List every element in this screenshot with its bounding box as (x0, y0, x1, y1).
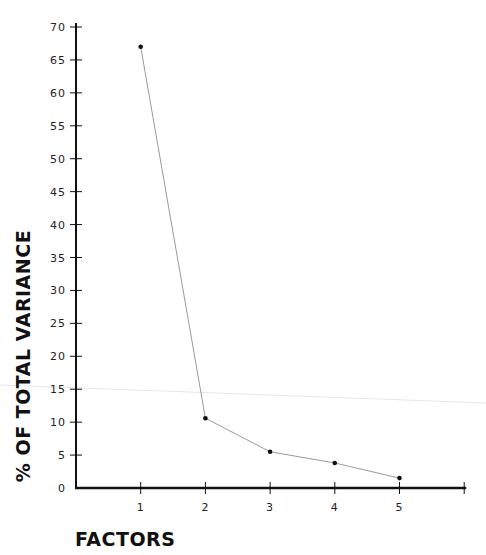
y-tick-label: 55 (50, 120, 66, 133)
y-tick-label: 50 (50, 153, 66, 166)
y-tick-label: 15 (50, 383, 66, 396)
x-tick-label: 3 (266, 501, 274, 514)
x-tick-label: 1 (137, 501, 145, 514)
x-tick-label: 4 (331, 501, 339, 514)
series-line (141, 47, 400, 478)
data-point-marker (203, 416, 208, 421)
data-point-marker (268, 449, 273, 454)
y-tick-label: 35 (50, 252, 66, 265)
y-axis: 0510152025303540455055606570 (50, 21, 82, 495)
y-tick-label: 70 (50, 21, 66, 34)
y-tick-label: 5 (58, 449, 66, 462)
x-tick-label: 5 (396, 501, 404, 514)
y-tick-label: 40 (50, 219, 66, 232)
data-point-marker (138, 44, 143, 49)
data-point-marker (397, 476, 402, 481)
data-point-marker (333, 461, 338, 466)
x-tick-label: 2 (201, 501, 209, 514)
scree-plot: 0510152025303540455055606570 12345 % OF … (0, 0, 486, 555)
y-tick-label: 25 (50, 317, 66, 330)
scan-artifact-line (0, 385, 486, 403)
y-tick-label: 45 (50, 186, 66, 199)
y-tick-label: 65 (50, 54, 66, 67)
y-axis-title: % OF TOTAL VARIANCE (12, 230, 34, 482)
x-axis-title: FACTORS (75, 528, 175, 550)
y-tick-label: 20 (50, 350, 66, 363)
y-tick-label: 60 (50, 87, 66, 100)
x-axis: 12345 (75, 482, 466, 514)
y-tick-label: 10 (50, 416, 66, 429)
y-tick-label: 0 (58, 482, 66, 495)
y-tick-label: 30 (50, 284, 66, 297)
data-series (138, 44, 401, 480)
